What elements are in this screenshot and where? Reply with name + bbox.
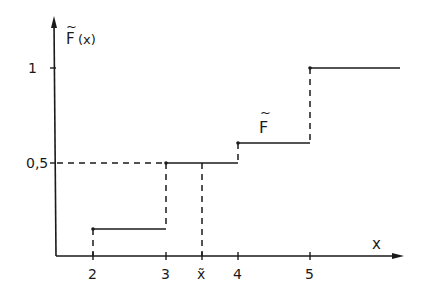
step-point-2 [91, 227, 95, 231]
x-tick-label-2: 2 [88, 266, 97, 282]
step-point-5 [308, 66, 312, 70]
y-axis [54, 22, 56, 256]
y-tick-label-0.5: 0,5 [26, 155, 48, 171]
step-point-3 [164, 161, 168, 165]
x-tick-label-3: 3 [161, 266, 170, 282]
x-tick-label-4: 4 [233, 266, 242, 282]
y-axis-label-arg: (x) [78, 32, 96, 47]
y-tick-label-1: 1 [28, 60, 37, 76]
x-axis-label: x [372, 235, 381, 253]
curve-label: F [259, 118, 268, 137]
x-axis-arrow-icon [392, 253, 404, 259]
x-tick-label-5: 5 [305, 266, 314, 282]
step-point-4 [236, 141, 240, 145]
step-function-chart: ~ F (x) 1 0,5 2 3 x̃ 4 5 x ~ F [0, 0, 441, 298]
axes [54, 22, 398, 256]
x-tick-label-median: x̃ [197, 266, 205, 282]
y-axis-arrow-icon [51, 16, 57, 28]
y-axis-label-main: F [66, 30, 75, 48]
